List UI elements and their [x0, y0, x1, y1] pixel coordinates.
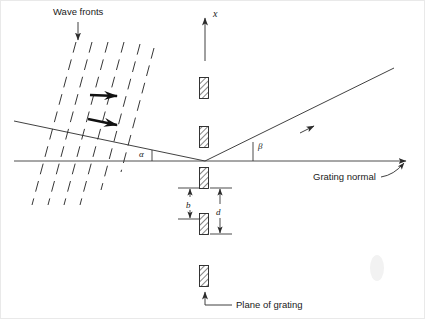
groove [200, 127, 209, 148]
incident-ray [14, 121, 205, 161]
diffracted-ray [205, 68, 394, 161]
groove [200, 168, 209, 189]
paper-smudge [370, 255, 384, 281]
wave-front-line [64, 42, 108, 205]
grating-normal-leader [381, 163, 404, 177]
wave-front-line [32, 42, 76, 205]
plane-of-grating-leader [205, 303, 232, 305]
dimension-d-label: d [216, 207, 221, 217]
grating-grooves-group [200, 78, 209, 287]
beta-angle-label: β [257, 141, 263, 151]
page-frame [1, 1, 425, 319]
wave-front-line [48, 42, 92, 205]
figure-canvas: Wave fronts x α β Grating normal [0, 0, 425, 319]
diffracted-ray-direction-arrow [300, 126, 314, 133]
groove [200, 78, 209, 99]
propagation-arrow-upper [90, 95, 117, 96]
plane-of-grating-label: Plane of grating [236, 299, 303, 310]
grating-normal-label: Grating normal [313, 171, 376, 182]
diffraction-grating-figure: Wave fronts x α β Grating normal [0, 0, 425, 319]
groove [200, 266, 209, 287]
wave-fronts-group [32, 42, 154, 205]
dimension-b-group: b [178, 188, 199, 219]
wave-front-line [101, 44, 140, 190]
x-axis-label: x [212, 8, 218, 19]
groove [200, 214, 209, 235]
wave-front-line [121, 48, 154, 172]
plane-of-grating-group: Plane of grating [205, 292, 303, 310]
dimension-b-label: b [186, 200, 191, 210]
wave-front-line [80, 42, 124, 205]
dimension-d-group: d [210, 188, 232, 234]
alpha-angle-label: α [139, 149, 144, 159]
wave-fronts-label: Wave fronts [53, 6, 104, 17]
